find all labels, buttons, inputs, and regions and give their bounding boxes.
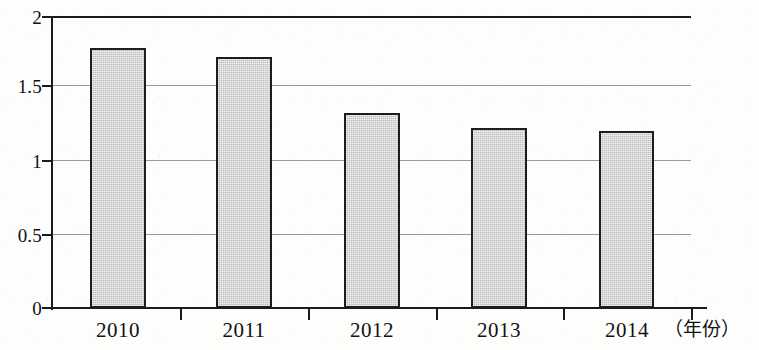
y-axis-label-1-5: 1.5 <box>0 77 42 96</box>
y-axis-label-0: 0 <box>0 299 42 318</box>
y-axis-line <box>51 16 53 310</box>
bar-2014 <box>599 131 654 308</box>
x-axis-title: （年份） <box>664 320 759 339</box>
gridline-1-5 <box>52 85 691 86</box>
y-axis-label-2: 2 <box>0 8 42 27</box>
y-tick-0-5 <box>42 234 52 236</box>
y-tick-0 <box>42 307 52 309</box>
x-tick-2 <box>308 309 310 320</box>
bar-2010 <box>90 48 146 308</box>
y-tick-2 <box>42 16 52 18</box>
x-axis-label-2010: 2010 <box>78 320 158 341</box>
bar-2013 <box>471 128 527 308</box>
y-axis-label-1: 1 <box>0 152 42 171</box>
x-axis-label-2013: 2013 <box>459 320 539 341</box>
x-axis-label-2011: 2011 <box>204 320 284 341</box>
y-tick-1-5 <box>42 85 52 87</box>
gridline-2 <box>52 16 691 18</box>
x-tick-3 <box>436 309 438 320</box>
bar-chart: 2 1.5 1 0.5 0 2010 2011 2012 2013 2014 （… <box>0 0 759 350</box>
y-tick-1 <box>42 160 52 162</box>
x-axis-label-2014: 2014 <box>587 320 667 341</box>
y-axis-label-0-5: 0.5 <box>0 226 42 245</box>
x-tick-4 <box>563 309 565 320</box>
bar-2012 <box>344 113 400 308</box>
x-tick-1 <box>180 309 182 320</box>
bar-2011 <box>216 57 272 308</box>
x-axis-label-2012: 2012 <box>332 320 412 341</box>
